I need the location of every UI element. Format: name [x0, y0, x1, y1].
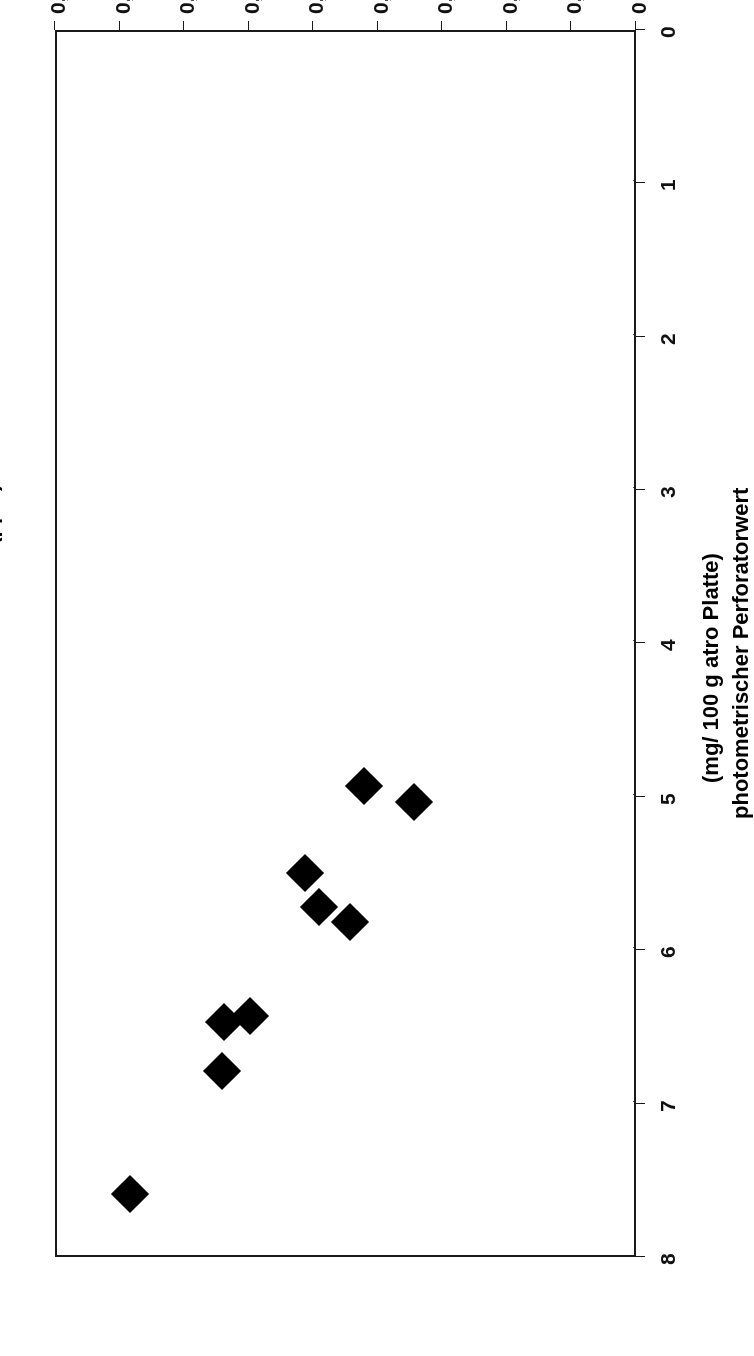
y-tick-7: [636, 1103, 645, 1104]
y-tick-2: [636, 336, 645, 337]
gridline-y-6: [633, 947, 634, 948]
x-tick-label-9: 0,18: [46, 0, 70, 14]
x-tick-1: [570, 21, 571, 30]
x-tick-label-5: 0,1: [304, 0, 328, 14]
y-tick-label-0: 0: [656, 26, 680, 38]
data-point-marker: [395, 783, 433, 821]
y-tick-label-3: 3: [656, 486, 680, 498]
data-point-marker: [331, 903, 369, 941]
x-tick-9: [54, 21, 55, 30]
x-tick-label-0: 0: [627, 2, 651, 14]
gridline-y-7: [633, 1101, 634, 1102]
y-axis-title-line2: (mg/ 100 g atro Platte): [698, 554, 724, 784]
x-tick-8: [119, 21, 120, 30]
x-tick-3: [441, 21, 442, 30]
plot-area: [55, 30, 636, 1257]
y-tick-3: [636, 489, 645, 490]
y-tick-label-7: 7: [656, 1100, 680, 1112]
x-tick-4: [377, 21, 378, 30]
y-tick-5: [636, 796, 645, 797]
x-tick-label-8: 0,16: [111, 0, 135, 14]
x-tick-2: [506, 21, 507, 30]
x-tick-5: [312, 21, 313, 30]
y-tick-6: [636, 949, 645, 950]
x-tick-6: [248, 21, 249, 30]
y-tick-label-2: 2: [656, 333, 680, 345]
x-tick-label-6: 0,12: [240, 0, 264, 14]
x-tick-label-4: 0,08: [369, 0, 393, 14]
y-tick-label-1: 1: [656, 180, 680, 192]
data-point-marker: [111, 1175, 149, 1213]
gridline-y-4: [633, 641, 634, 642]
y-tick-label-8: 8: [656, 1253, 680, 1265]
gridline-y-1: [633, 180, 634, 181]
y-tick-4: [636, 643, 645, 644]
x-tick-label-2: 0,04: [498, 0, 522, 14]
x-tick-7: [183, 21, 184, 30]
data-point-marker: [203, 1052, 241, 1090]
data-point-marker: [345, 767, 383, 805]
y-tick-8: [636, 1256, 645, 1257]
gridline-y-3: [633, 487, 634, 488]
y-axis-title-line1: photometrischer Perforatorwert: [728, 488, 754, 819]
y-tick-1: [636, 182, 645, 183]
data-point-marker: [286, 854, 324, 892]
gridline-y-2: [633, 334, 634, 335]
gridline-y-5: [633, 794, 634, 795]
x-axis-title: Prüfraumkonzentration (ppm): [0, 484, 3, 793]
y-tick-label-4: 4: [656, 640, 680, 652]
y-tick-label-5: 5: [656, 793, 680, 805]
x-tick-label-1: 0,02: [562, 0, 586, 14]
y-tick-0: [636, 29, 645, 30]
y-tick-label-6: 6: [656, 947, 680, 959]
x-tick-label-7: 0,14: [175, 0, 199, 14]
x-tick-label-3: 0,06: [433, 0, 457, 14]
